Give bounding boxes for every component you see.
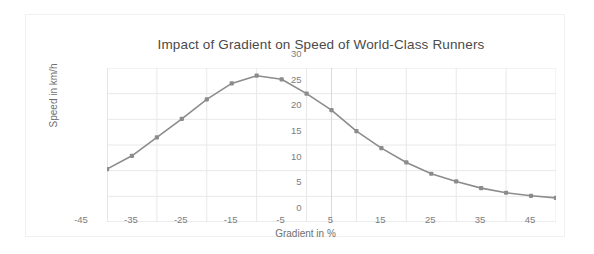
x-axis-title: Gradient in % (81, 228, 530, 239)
data-point (304, 92, 308, 96)
data-point (255, 74, 259, 78)
data-point (454, 179, 458, 183)
data-point (280, 77, 284, 81)
plot-area (107, 68, 556, 222)
data-point (155, 135, 159, 139)
data-point (354, 129, 358, 133)
y-axis-title: Speed in km/h (48, 36, 59, 156)
data-point (230, 81, 234, 85)
chart-canvas (107, 68, 556, 222)
data-point (205, 97, 209, 101)
data-point (554, 196, 556, 200)
data-point (329, 108, 333, 112)
data-point (404, 160, 408, 164)
data-point (504, 191, 508, 195)
data-point (379, 146, 383, 150)
data-point (429, 172, 433, 176)
data-point (529, 194, 533, 198)
data-point (180, 117, 184, 121)
data-point (479, 186, 483, 190)
data-point (107, 167, 109, 171)
chart-title: Impact of Gradient on Speed of World-Cla… (51, 37, 591, 52)
chart-frame: Impact of Gradient on Speed of World-Cla… (25, 14, 565, 237)
data-point (130, 154, 134, 158)
